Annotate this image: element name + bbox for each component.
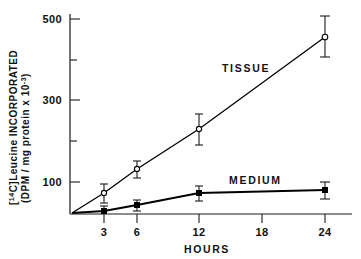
error-bars-medium bbox=[100, 182, 330, 214]
error-bars-tissue bbox=[100, 16, 330, 203]
y-axis-ticks bbox=[70, 19, 80, 182]
data-point-medium-6h bbox=[135, 203, 140, 208]
y-axis-label-line2: (DPM / mg protein x 10-3) bbox=[20, 73, 32, 203]
y-axis-label-line1: [14C]Leucine INCORPORATED bbox=[8, 50, 20, 205]
data-point-medium-12h bbox=[197, 191, 202, 196]
y-tick-label-300: 300 bbox=[42, 94, 62, 106]
x-tick-label-18: 18 bbox=[255, 226, 268, 238]
y-tick-label-100: 100 bbox=[42, 176, 62, 188]
x-axis-title: HOURS bbox=[184, 243, 230, 255]
data-point-tissue-12h bbox=[196, 126, 201, 131]
data-point-medium-3h bbox=[102, 209, 107, 214]
markers-tissue bbox=[101, 34, 327, 195]
x-tick-label-3: 3 bbox=[101, 226, 108, 238]
series-annotation-tissue: TISSUE bbox=[222, 62, 270, 74]
data-point-tissue-24h bbox=[322, 34, 328, 40]
y-tick-label-500: 500 bbox=[42, 13, 62, 25]
data-point-medium-24h bbox=[323, 188, 328, 193]
series-annotation-medium: MEDIUM bbox=[229, 174, 282, 186]
x-tick-label-24: 24 bbox=[318, 226, 332, 238]
figure-container: [14C]Leucine INCORPORATED (DPM / mg prot… bbox=[0, 0, 361, 259]
x-axis-ticks bbox=[104, 214, 325, 223]
x-tick-label-12: 12 bbox=[192, 226, 205, 238]
y-axis-label: [14C]Leucine INCORPORATED (DPM / mg prot… bbox=[8, 50, 32, 205]
data-point-tissue-6h bbox=[134, 166, 139, 171]
x-tick-label-6: 6 bbox=[134, 226, 141, 238]
data-point-tissue-3h bbox=[101, 190, 106, 195]
line-chart: [14C]Leucine INCORPORATED (DPM / mg prot… bbox=[0, 0, 361, 259]
